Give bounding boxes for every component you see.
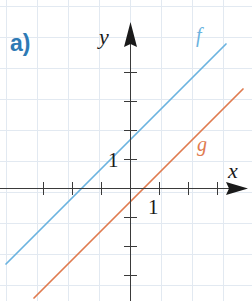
y-axis-tick-label-1: 1 (108, 150, 119, 171)
panel-label: a) (10, 32, 30, 55)
curve-g (34, 89, 243, 298)
graph-figure: a) y x 1 1 f g (0, 0, 252, 301)
curve-label-g: g (197, 134, 207, 154)
y-axis-arrow-icon (124, 22, 137, 47)
y-axis-label: y (99, 26, 109, 48)
x-axis-arrow-icon (226, 182, 248, 195)
x-axis-tick-label-1: 1 (148, 197, 159, 218)
curve-label-f: f (196, 25, 202, 45)
coordinate-plot (0, 0, 252, 301)
x-axis-label: x (228, 160, 238, 182)
